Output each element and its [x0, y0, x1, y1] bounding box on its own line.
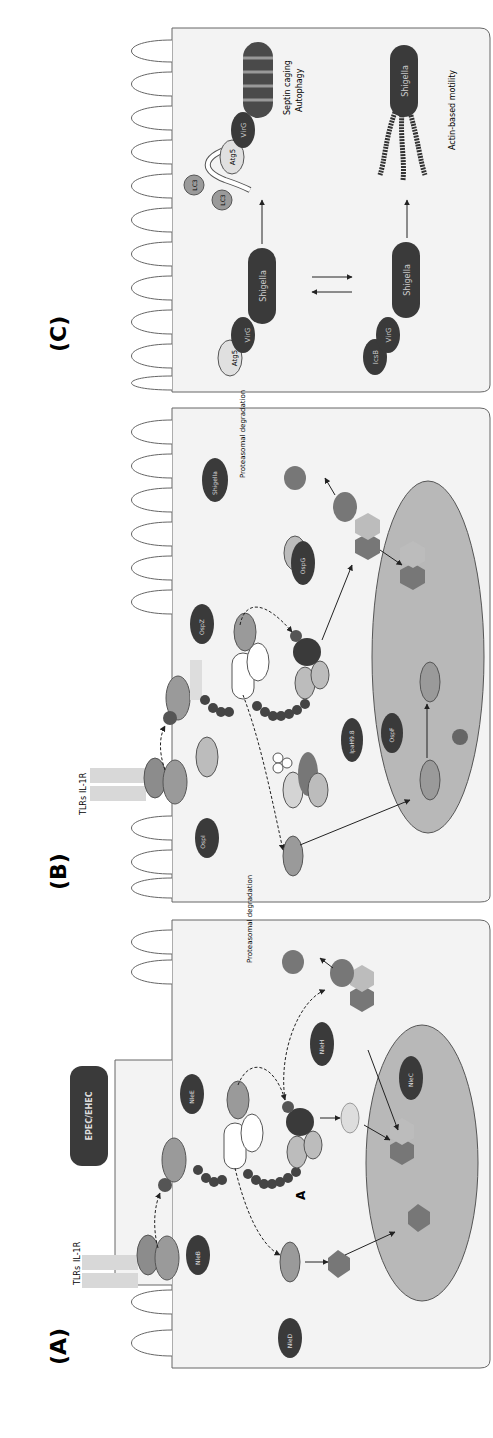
tlr-receptor-a — [82, 1255, 138, 1270]
svg-text:NleB: NleB — [194, 1251, 201, 1265]
svg-text:VirG: VirG — [385, 328, 393, 343]
svg-text:Atg5: Atg5 — [231, 350, 239, 366]
svg-text:Shigella: Shigella — [401, 65, 410, 97]
svg-text:IcsB: IcsB — [372, 350, 380, 365]
svg-text:IL-1R: IL-1R — [73, 1241, 82, 1262]
svg-text:Atg5: Atg5 — [229, 149, 237, 165]
nucleus-a — [366, 1025, 478, 1301]
svg-text:Proteasomal degradation: Proteasomal degradation — [239, 390, 247, 478]
caption-septin: Septin caging — [283, 60, 292, 115]
svg-text:A: A — [294, 1190, 308, 1200]
svg-text:IL-1R: IL-1R — [79, 772, 88, 793]
svg-text:TLRs: TLRs — [73, 1266, 82, 1286]
svg-text:Shigella: Shigella — [259, 270, 268, 302]
panel-b: (B) TLRs IL-1R — [46, 390, 490, 902]
svg-text:OspF: OspF — [388, 727, 396, 743]
svg-text:NleE: NleE — [188, 1090, 195, 1104]
microvilli-c — [132, 40, 173, 390]
svg-text:EPEC/EHEC: EPEC/EHEC — [85, 1091, 94, 1140]
svg-text:TLRs: TLRs — [79, 796, 88, 816]
svg-text:Shigella: Shigella — [211, 471, 219, 495]
caption-autophagy: Autophagy — [295, 68, 304, 112]
svg-text:NleC: NleC — [407, 1073, 414, 1087]
svg-text:NleD: NleD — [286, 1333, 293, 1348]
panel-c: (C) Atg5 VirG Shigella — [46, 28, 490, 392]
svg-text:OspG: OspG — [299, 557, 307, 574]
svg-text:LC3: LC3 — [219, 194, 226, 206]
il1r-receptor-a — [82, 1273, 138, 1288]
svg-text:Proteasomal degradation: Proteasomal degradation — [246, 875, 254, 963]
caption-actin-motility: Actin-based motility — [448, 70, 457, 150]
svg-text:OspZ: OspZ — [198, 619, 206, 635]
il1r-receptor-b — [90, 786, 146, 801]
svg-text:Shigella: Shigella — [403, 264, 412, 296]
microvilli-b — [132, 420, 173, 898]
tlr-receptor-b — [90, 768, 146, 783]
svg-text:LC3: LC3 — [191, 179, 198, 191]
svg-text:VirG: VirG — [244, 328, 252, 343]
figure-canvas: (C) Atg5 VirG Shigella — [0, 0, 493, 1438]
panel-a: (A) EPEC/EHEC TLRs IL-1R — [46, 875, 490, 1368]
panel-c-label: (C) — [46, 316, 71, 352]
panel-b-label: (B) — [46, 853, 71, 890]
svg-text:VirG: VirG — [240, 123, 248, 138]
svg-text:OspI: OspI — [199, 835, 207, 849]
svg-text:NleH: NleH — [318, 1040, 325, 1054]
panel-a-label: (A) — [46, 1328, 71, 1365]
svg-text:IpaH9.8: IpaH9.8 — [348, 730, 356, 753]
